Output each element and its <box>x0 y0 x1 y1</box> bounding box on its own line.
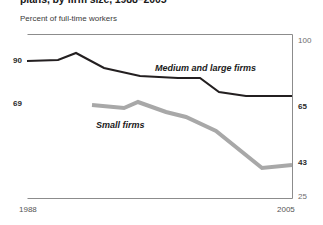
series-line-medium-large <box>27 53 292 96</box>
y-axis-label-right-100: 100 <box>298 37 311 45</box>
x-axis-label-end: 2005 <box>277 206 295 214</box>
y-axis-label-right-25: 25 <box>298 193 307 201</box>
y-axis-label-right-43: 43 <box>298 159 307 167</box>
series-annotation-small: Small firms <box>96 120 145 130</box>
y-axis-label-left-90: 90 <box>4 57 22 65</box>
chart-figure: plans, by firm size, 1988–2005 Percent o… <box>0 0 323 225</box>
series-line-small <box>92 102 292 168</box>
axis-frame <box>28 35 293 199</box>
plot-svg <box>0 0 323 225</box>
x-axis-label-start: 1988 <box>19 206 37 214</box>
series-annotation-medium-large: Medium and large firms <box>155 63 256 73</box>
plot-area <box>0 0 323 225</box>
y-axis-label-right-65: 65 <box>298 103 307 111</box>
y-axis-label-left-69: 69 <box>4 100 22 108</box>
